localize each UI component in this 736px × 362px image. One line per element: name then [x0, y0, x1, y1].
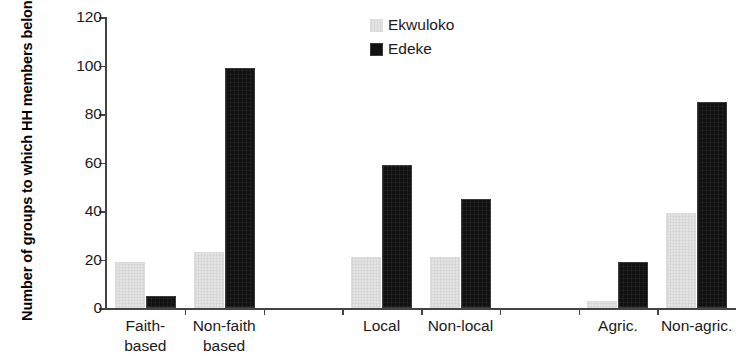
x-axis-tick-mark [500, 308, 502, 315]
bar [146, 296, 176, 308]
x-axis-tick-mark [421, 308, 423, 315]
x-axis-category-labels: Faith-basedNon-faithbasedLocalNon-localA… [106, 316, 736, 362]
x-axis-tick-mark [342, 308, 344, 315]
y-axis-tick-label: 0 [93, 300, 102, 316]
x-axis-category-label: Faith-based [106, 316, 185, 356]
bar [382, 165, 412, 308]
y-axis-tick-label: 120 [76, 9, 102, 25]
bar-chart: Number of groups to which HH members bel… [0, 0, 736, 362]
legend-swatch-ekwuloko [370, 19, 383, 32]
legend-swatch-edeke [370, 43, 383, 56]
bar [430, 257, 460, 308]
x-axis-tick-mark [579, 308, 581, 315]
legend-label: Edeke [388, 41, 432, 57]
legend-item: Edeke [370, 37, 570, 61]
x-axis-category-label: Non-agric. [657, 316, 736, 336]
y-axis-tick-label: 20 [85, 252, 102, 268]
legend-item: Ekwuloko [370, 13, 570, 37]
y-axis-tick-label: 80 [85, 106, 102, 122]
y-axis-tick-label: 40 [85, 203, 102, 219]
x-axis-tick-mark [657, 308, 659, 315]
y-axis-title: Number of groups to which HH members bel… [0, 0, 56, 312]
bar [697, 102, 727, 308]
bar [461, 199, 491, 308]
legend-label: Ekwuloko [388, 17, 454, 33]
bar [587, 301, 617, 308]
bar [618, 262, 648, 308]
bar [194, 252, 224, 308]
bar [225, 68, 255, 308]
y-axis-title-text: Number of groups to which HH members bel… [19, 0, 38, 321]
bar [351, 257, 381, 308]
x-axis-category-label: Non-local [421, 316, 500, 336]
x-axis-category-label: Agric. [579, 316, 658, 336]
y-axis-tick-label: 60 [85, 155, 102, 171]
bar [666, 213, 696, 308]
x-axis-category-label: Local [342, 316, 421, 336]
x-axis-category-label: Non-faithbased [185, 316, 264, 356]
x-axis-tick-mark [264, 308, 266, 315]
y-axis-tick-label: 100 [76, 58, 102, 74]
x-axis-tick-mark [185, 308, 187, 315]
legend: EkwulokoEdeke [370, 13, 570, 61]
bar [115, 262, 145, 308]
